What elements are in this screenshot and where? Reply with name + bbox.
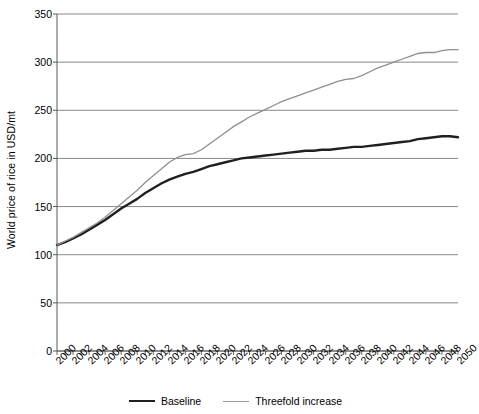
legend-swatch-threefold-increase-icon [223, 401, 249, 402]
gridlines [57, 14, 458, 351]
legend-item-baseline: Baseline [129, 395, 201, 407]
chart-legend: Baseline Threefold increase [0, 391, 471, 411]
legend-item-threefold-increase: Threefold increase [223, 395, 342, 407]
legend-label-baseline: Baseline [161, 395, 201, 407]
series-line-baseline [57, 136, 458, 245]
legend-label-threefold-increase: Threefold increase [255, 395, 342, 407]
series-line-threefold-increase [57, 50, 458, 245]
data-series [57, 50, 458, 245]
y-axis-ticks [53, 14, 57, 351]
legend-swatch-baseline-icon [129, 400, 155, 402]
